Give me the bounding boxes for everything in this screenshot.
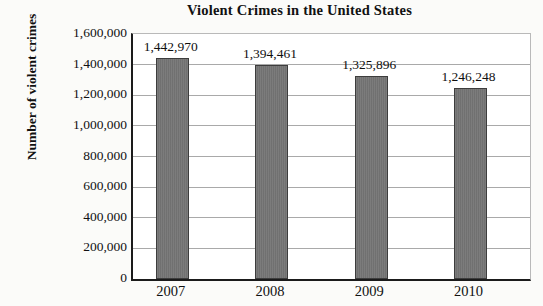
y-axis-tick-label: 1,600,000 <box>27 26 127 39</box>
chart-figure: Violent Crimes in the United States Numb… <box>0 0 543 306</box>
bar[interactable] <box>454 88 487 279</box>
y-axis-tick-labels: 1,600,0001,400,0001,200,0001,000,000800,… <box>24 0 127 306</box>
bar-value-label: 1,394,461 <box>227 47 313 61</box>
x-axis-tick-label: 2008 <box>235 283 305 300</box>
y-axis-tick-label: 200,000 <box>27 240 127 253</box>
bar[interactable] <box>156 58 189 279</box>
y-axis-tick-label: 1,000,000 <box>27 118 127 131</box>
x-axis-tick-label: 2010 <box>433 283 503 300</box>
y-axis-tick-label: 600,000 <box>27 179 127 192</box>
y-axis-tick-label: 800,000 <box>27 149 127 162</box>
x-axis-tick-label: 2007 <box>136 283 206 300</box>
bar-value-label: 1,325,896 <box>326 58 412 72</box>
bar[interactable] <box>255 65 288 279</box>
x-axis-tick-label: 2009 <box>334 283 404 300</box>
y-axis-tick-label: 0 <box>27 271 127 284</box>
y-axis-tick-label: 1,400,000 <box>27 57 127 70</box>
y-axis-tick-label: 1,200,000 <box>27 87 127 100</box>
bar-value-label: 1,246,248 <box>425 70 511 84</box>
bar[interactable] <box>355 76 388 279</box>
bar-value-label: 1,442,970 <box>128 40 214 54</box>
y-axis-tick-label: 400,000 <box>27 210 127 223</box>
